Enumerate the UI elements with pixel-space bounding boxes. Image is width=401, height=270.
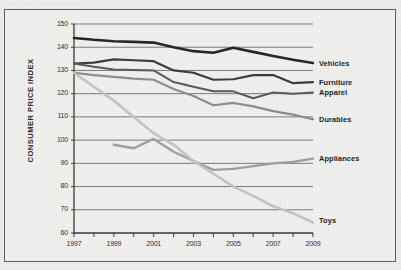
y-tick-label-70: 70 xyxy=(46,205,68,212)
x-tick-label-1997: 1997 xyxy=(59,240,89,247)
x-tick-label-2009: 2009 xyxy=(298,240,328,247)
chart-figure-frame: CONSUMER PRICE INDEX 6070809010011012013… xyxy=(4,9,396,262)
series-label-toys: Toys xyxy=(319,216,336,225)
y-tick-label-90: 90 xyxy=(46,159,68,166)
y-tick-label-140: 140 xyxy=(46,43,68,50)
x-tick-label-2005: 2005 xyxy=(218,240,248,247)
series-line-appliances xyxy=(114,139,313,170)
y-tick-label-60: 60 xyxy=(46,229,68,236)
y-tick-label-80: 80 xyxy=(46,182,68,189)
series-label-apparel: Apparel xyxy=(319,88,347,97)
x-tick-label-2003: 2003 xyxy=(179,240,209,247)
y-tick-label-120: 120 xyxy=(46,89,68,96)
y-tick-label-150: 150 xyxy=(46,20,68,27)
series-label-appliances: Appliances xyxy=(319,154,359,163)
series-label-furniture: Furniture xyxy=(319,78,352,87)
x-tick-label-1999: 1999 xyxy=(99,240,129,247)
y-tick-label-130: 130 xyxy=(46,66,68,73)
x-tick-label-2007: 2007 xyxy=(258,240,288,247)
series-line-furniture xyxy=(74,59,313,83)
y-tick-label-100: 100 xyxy=(46,136,68,143)
gridlines-group xyxy=(74,24,313,233)
data-series-group xyxy=(74,38,313,223)
series-line-durables xyxy=(74,73,313,119)
series-label-durables: Durables xyxy=(319,115,351,124)
series-line-apparel xyxy=(74,63,313,98)
x-tick-label-2001: 2001 xyxy=(139,240,169,247)
page-top-fragment: · ·················· ·············· xyxy=(0,0,401,7)
y-tick-label-110: 110 xyxy=(46,112,68,119)
series-label-vehicles: Vehicles xyxy=(319,59,349,68)
